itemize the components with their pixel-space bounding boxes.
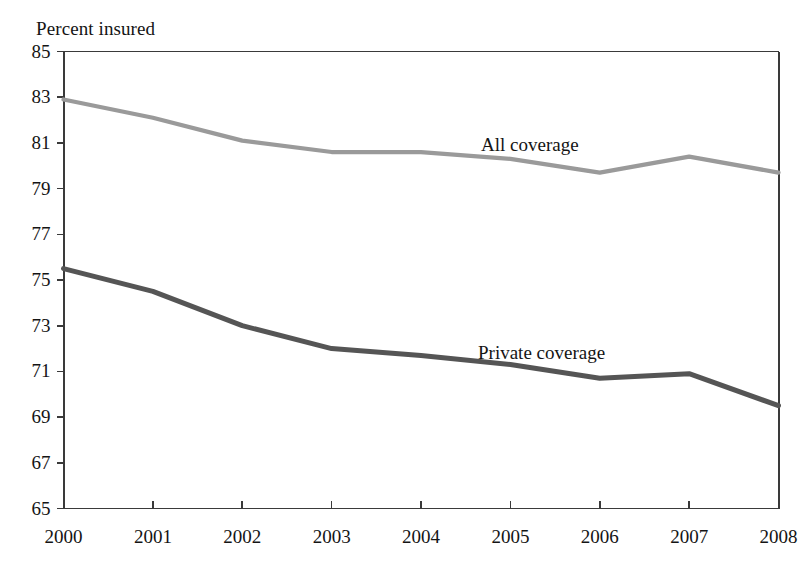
x-axis-tick-label: 2003 — [287, 526, 377, 548]
y-axis-tick-label: 77 — [5, 223, 51, 245]
y-axis-tick-label: 85 — [5, 41, 51, 63]
x-axis-tick-label: 2001 — [108, 526, 198, 548]
x-axis-tick-label: 2000 — [19, 526, 109, 548]
x-axis-tick-label: 2005 — [465, 526, 555, 548]
y-axis-tick-label: 65 — [5, 498, 51, 520]
series-line-private-coverage — [64, 269, 779, 406]
data-series-group — [64, 99, 779, 405]
y-axis-tick-label: 83 — [5, 86, 51, 108]
x-axis-tick-label: 2007 — [644, 526, 734, 548]
series-line-all-coverage — [64, 99, 779, 172]
y-axis-tick-label: 81 — [5, 132, 51, 154]
y-axis-tick-label: 75 — [5, 269, 51, 291]
x-axis-tick-label: 2006 — [555, 526, 645, 548]
chart-figure: Percent insured 8583817977757371696765 2… — [0, 0, 800, 575]
series-annotation-label: Private coverage — [478, 342, 605, 364]
y-axis-tick-label: 79 — [5, 178, 51, 200]
chart-plot-area — [0, 0, 800, 575]
series-annotation-label: All coverage — [481, 134, 579, 156]
y-axis-tick-label: 69 — [5, 406, 51, 428]
x-axis-tick-label: 2008 — [734, 526, 800, 548]
x-axis-tick-label: 2004 — [376, 526, 466, 548]
y-axis-tick-label: 67 — [5, 452, 51, 474]
axis-frame — [64, 52, 779, 509]
x-axis-tick-label: 2002 — [197, 526, 287, 548]
y-axis-tick-label: 71 — [5, 360, 51, 382]
y-axis-tick-label: 73 — [5, 315, 51, 337]
